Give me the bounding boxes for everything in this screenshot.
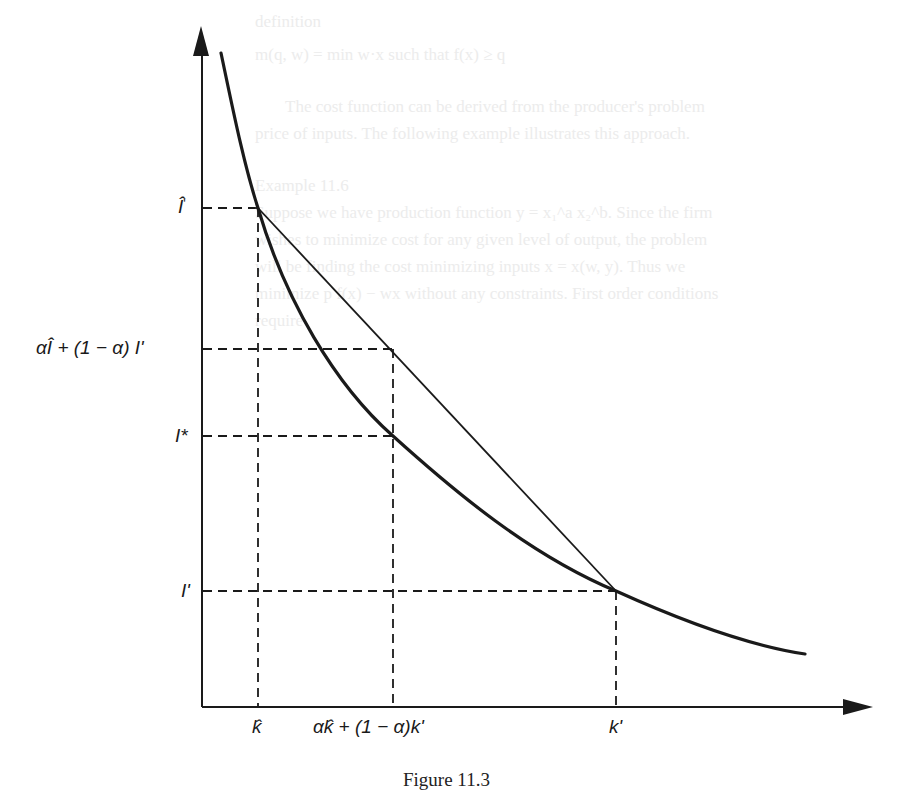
x-label-combo: αk̂ + (1 − α)k' bbox=[313, 717, 424, 736]
y-label-i-star: I* bbox=[175, 426, 188, 445]
isoquant-curve bbox=[221, 53, 805, 654]
y-label-combo: αÎ + (1 − α) I' bbox=[36, 338, 144, 357]
y-label-i-hat: Î' bbox=[178, 197, 186, 216]
x-axis-arrow-icon bbox=[843, 699, 873, 715]
y-axis-arrow-icon bbox=[193, 26, 209, 56]
figure-caption: Figure 11.3 bbox=[403, 769, 490, 791]
chord-line bbox=[258, 208, 616, 591]
x-label-k-prime: k' bbox=[609, 717, 622, 736]
y-label-prime-mark: ' bbox=[183, 196, 185, 211]
y-label-i-prime: I' bbox=[181, 581, 190, 600]
x-label-k-hat: k̂ bbox=[252, 717, 262, 736]
